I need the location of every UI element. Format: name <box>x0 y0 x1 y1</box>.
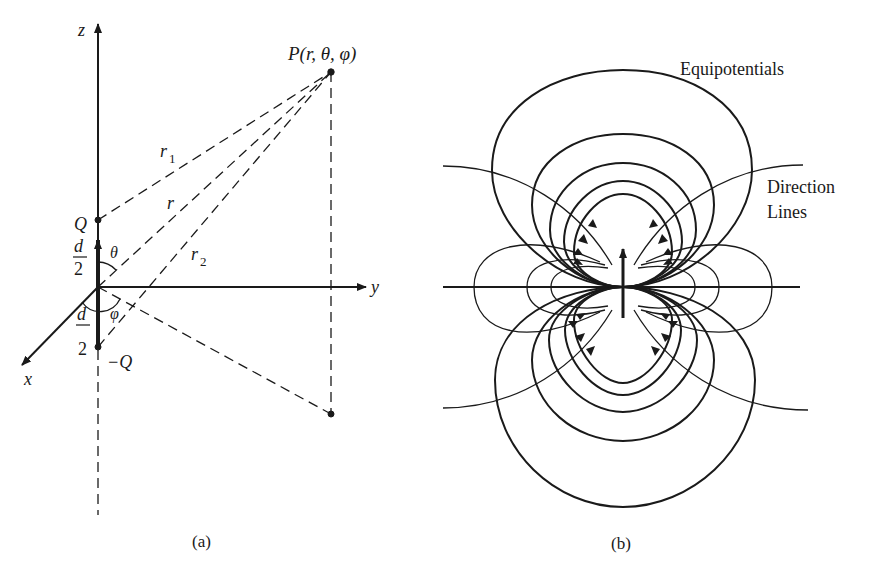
y-axis-label: y <box>369 277 379 297</box>
caption-b: (b) <box>611 534 631 553</box>
z-axis-label: z <box>77 20 85 40</box>
theta-label: θ <box>110 244 118 261</box>
charge-neg-q-dot <box>95 344 101 350</box>
lower-half-d-label: d <box>77 304 87 324</box>
lower-half-2-label: 2 <box>78 339 87 359</box>
r2-label: r <box>191 244 199 264</box>
figure-a-labels: z y x P(r, θ, φ) r 1 r r 2 Q −Q θ φ d 2 … <box>23 20 379 551</box>
charge-q-dot <box>95 217 101 223</box>
figure-b <box>443 70 808 507</box>
phi-label: φ <box>110 305 119 323</box>
upper-half-d-label: d <box>74 236 84 256</box>
projection-radial <box>98 287 331 414</box>
equipotentials-label: Equipotentials <box>680 59 784 79</box>
r1-line <box>98 72 331 220</box>
x-axis-label: x <box>23 369 32 389</box>
upper-half-2-label: 2 <box>74 259 83 279</box>
charge-q-label: Q <box>74 214 87 234</box>
dipole-figure: z y x P(r, θ, φ) r 1 r r 2 Q −Q θ φ d 2 … <box>0 0 869 569</box>
theta-arc <box>98 262 116 270</box>
r1-label: r <box>160 141 168 161</box>
equipotentials-lower <box>495 287 755 507</box>
r1-subscript: 1 <box>169 151 176 166</box>
charge-neg-q-label: −Q <box>107 352 132 372</box>
direction-label-line1: Direction <box>767 177 835 197</box>
figure-b-labels: Equipotentials Direction Lines (b) <box>611 59 835 553</box>
caption-a: (a) <box>192 532 211 551</box>
point-p-label: P(r, θ, φ) <box>287 43 356 65</box>
r-label: r <box>167 193 175 213</box>
point-p <box>328 69 334 75</box>
r-line <box>98 72 331 287</box>
r2-subscript: 2 <box>200 254 207 269</box>
direction-label-line2: Lines <box>767 202 807 222</box>
projection-point <box>328 411 334 417</box>
